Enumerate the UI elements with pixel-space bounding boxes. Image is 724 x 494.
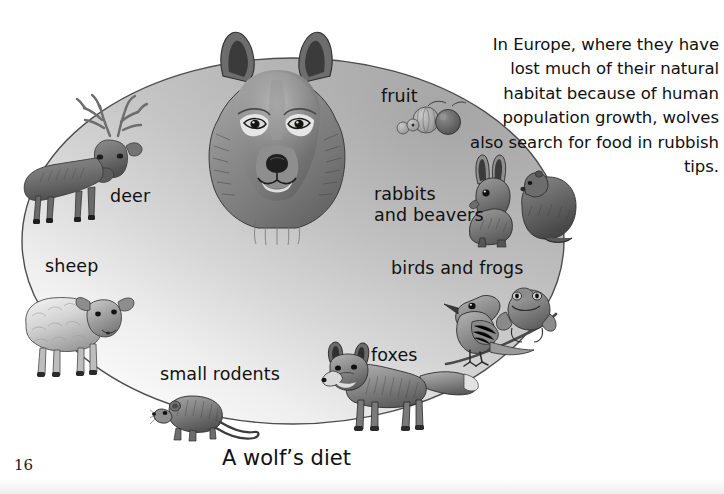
label-deer: deer <box>110 186 150 207</box>
illustration-sheep <box>20 272 142 380</box>
label-small-rodents: small rodents <box>160 364 280 385</box>
label-birds-and-frogs: birds and frogs <box>391 258 524 279</box>
illustration-wolf-head <box>196 24 358 246</box>
europe-habitat-paragraph: In Europe, where they have lost much of … <box>468 33 719 179</box>
page-bottom-edge-shadow <box>0 479 724 494</box>
label-sheep: sheep <box>45 256 98 277</box>
page-number: 16 <box>14 456 33 474</box>
label-foxes: foxes <box>371 345 418 366</box>
label-rabbits-and-beavers: rabbits and beavers <box>374 184 484 226</box>
illustration-small-rodent <box>150 388 262 444</box>
label-fruit: fruit <box>381 86 418 107</box>
book-page: deer sheep fruit rabbits and beavers bir… <box>0 0 724 494</box>
diagram-caption: A wolf’s diet <box>222 446 351 470</box>
